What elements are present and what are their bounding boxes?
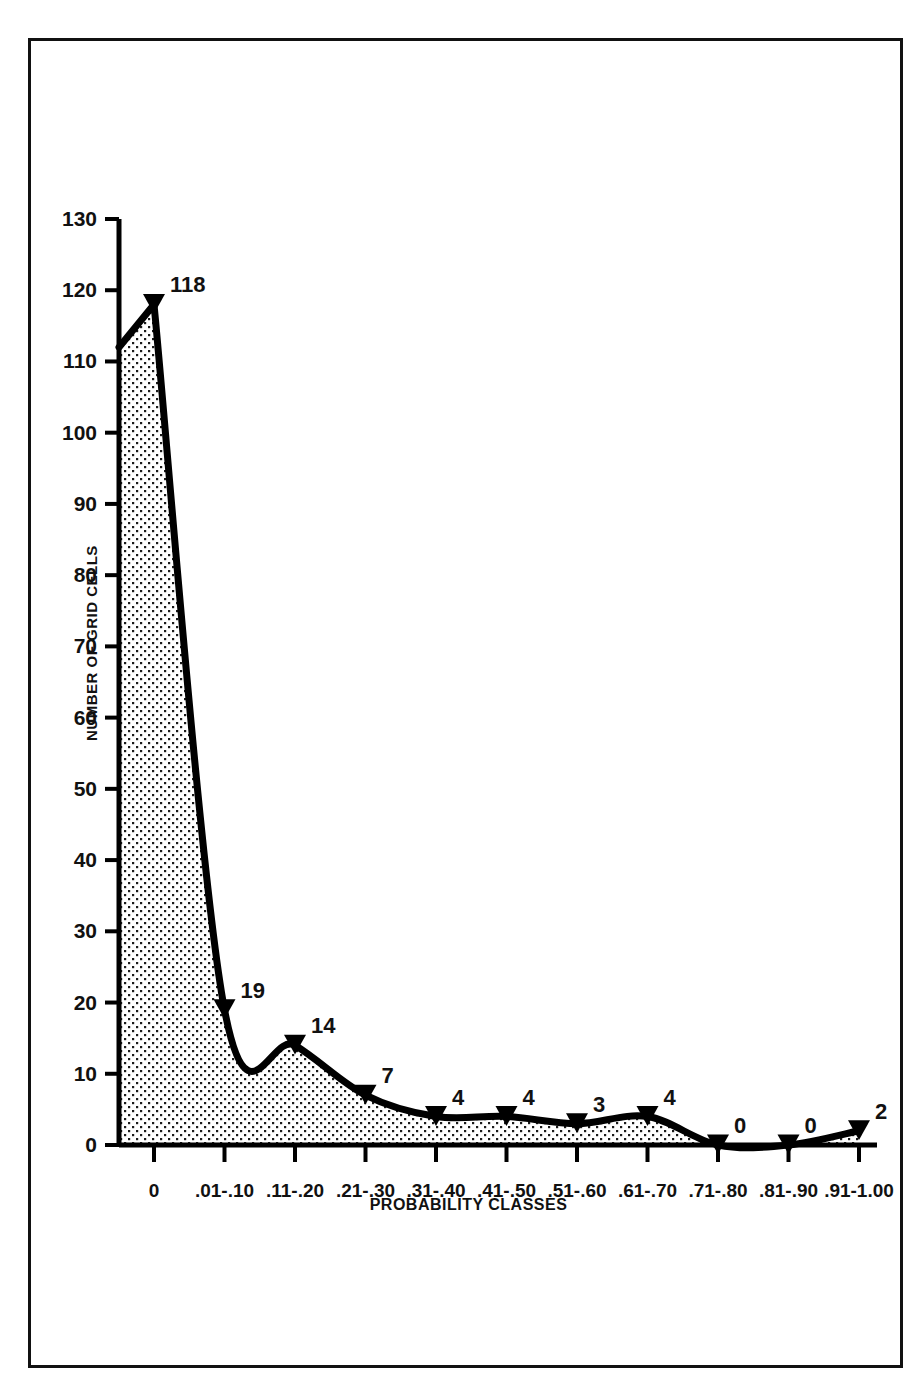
y-tick-label: 100: [62, 421, 97, 444]
data-point-label: 118: [170, 272, 206, 297]
data-point-label: 0: [734, 1113, 746, 1138]
data-point-label: 19: [241, 978, 265, 1003]
y-tick-label: 30: [74, 919, 97, 942]
y-tick-label: 40: [74, 848, 97, 871]
y-tick-label: 10: [74, 1062, 97, 1085]
y-tick-label: 130: [62, 207, 97, 230]
data-point-label: 4: [452, 1085, 465, 1110]
data-point-label: 3: [593, 1092, 605, 1117]
data-point-label: 4: [664, 1085, 677, 1110]
y-tick-label: 50: [74, 777, 97, 800]
y-tick-label: 120: [62, 278, 97, 301]
series-markers: [143, 294, 870, 1154]
y-tick-label: 0: [85, 1133, 97, 1156]
y-axis: [105, 219, 119, 1145]
y-tick-label: 20: [74, 991, 97, 1014]
frequency-polygon-chart: 118191474434002 010203040506070809010011…: [31, 41, 906, 1371]
data-point-label: 14: [311, 1013, 336, 1038]
figure-frame: 118191474434002 010203040506070809010011…: [28, 38, 903, 1368]
y-tick-label: 90: [74, 492, 97, 515]
series-line: [119, 304, 859, 1147]
y-tick-label: 110: [63, 349, 97, 372]
x-axis-title: PROBABILITY CLASSES: [31, 1196, 906, 1214]
data-point-label: 0: [805, 1113, 817, 1138]
chart-plot-area: 118191474434002 010203040506070809010011…: [31, 41, 906, 1371]
y-axis-title: NUMBER OF GRID CELLS: [83, 545, 100, 741]
data-point-label: 2: [875, 1099, 887, 1124]
series-value-labels: 118191474434002: [170, 272, 887, 1138]
data-point-label: 4: [523, 1085, 536, 1110]
data-point-label: 7: [382, 1063, 394, 1088]
